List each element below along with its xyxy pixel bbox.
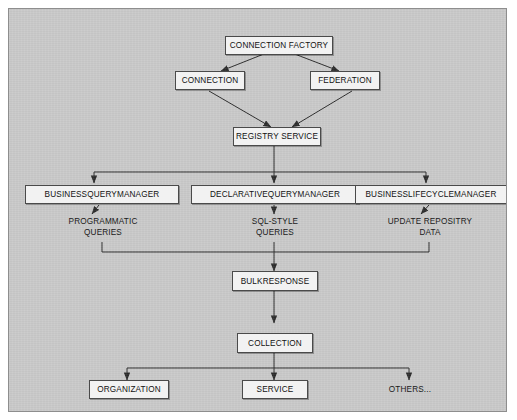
node-collection[interactable]: COLLECTION [237, 333, 313, 353]
label-others: OTHERS... [375, 384, 445, 395]
node-federation[interactable]: FEDERATION [310, 71, 380, 90]
node-bulkresponse[interactable]: BULKRESPONSE [232, 271, 318, 291]
node-declarativequerymanager[interactable]: DECLARATIVEQUERYMANAGER [191, 185, 359, 204]
node-businesslifecyclemanager[interactable]: BUSINESSLIFECYCLEMANAGER [355, 185, 507, 204]
node-connection[interactable]: CONNECTION [175, 71, 245, 90]
diagram-frame: CONNECTION FACTORY CONNECTION FEDERATION… [8, 8, 507, 412]
node-registry-service[interactable]: REGISTRY SERVICE [233, 127, 321, 146]
label-sql-style-queries: SQL-STYLE QUERIES [220, 216, 330, 238]
label-update-repository-data: UPDATE REPOSITRY DATA [371, 216, 489, 238]
node-businessquerymanager[interactable]: BUSINESSQUERYMANAGER [25, 185, 179, 204]
node-service[interactable]: SERVICE [242, 380, 308, 399]
label-programmatic-queries: PROGRAMMATIC QUERIES [47, 216, 159, 238]
node-organization[interactable]: ORGANIZATION [89, 380, 169, 399]
node-connection-factory[interactable]: CONNECTION FACTORY [225, 36, 333, 55]
